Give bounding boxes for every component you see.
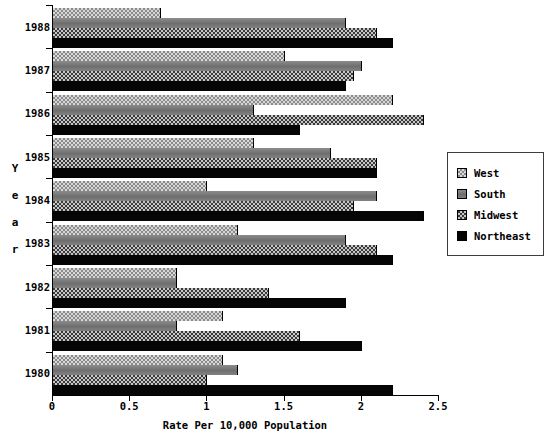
bar-midwest-1986 xyxy=(53,115,424,125)
legend-swatch-midwest-icon xyxy=(457,210,467,220)
legend-label: South xyxy=(474,188,506,200)
bar-west-1986 xyxy=(53,95,393,105)
legend: WestSouthMidwestNortheast xyxy=(447,152,544,256)
x-axis-tick-label-1: 1 xyxy=(203,400,209,412)
legend-label: Midwest xyxy=(474,209,518,221)
bar-midwest-1984 xyxy=(53,201,354,211)
y-axis-tick xyxy=(46,48,53,49)
legend-label: Northeast xyxy=(474,230,531,242)
bar-northeast-1986 xyxy=(53,125,300,135)
y-axis-tick xyxy=(46,308,53,309)
bar-northeast-1982 xyxy=(53,298,346,308)
y-axis-tick-labels: 198819871986198519841983198219811980 xyxy=(16,5,50,395)
x-axis-title: Rate Per 10,000 Population xyxy=(0,419,490,431)
bar-south-1982 xyxy=(53,278,177,288)
bar-northeast-1983 xyxy=(53,255,393,265)
bar-midwest-1983 xyxy=(53,245,377,255)
legend-item-west[interactable]: West xyxy=(457,162,535,183)
y-axis-tick-label-1980: 1980 xyxy=(16,367,50,379)
x-axis-tick-labels: 00.511.522.5 xyxy=(52,400,438,416)
bar-south-1984 xyxy=(53,191,377,201)
legend-item-midwest[interactable]: Midwest xyxy=(457,204,535,225)
bar-south-1983 xyxy=(53,235,346,245)
bar-group xyxy=(53,135,438,178)
bar-midwest-1982 xyxy=(53,288,269,298)
bar-group xyxy=(53,222,438,265)
bar-south-1980 xyxy=(53,365,238,375)
bar-midwest-1987 xyxy=(53,71,354,81)
y-axis-tick xyxy=(46,222,53,223)
bar-group xyxy=(53,48,438,91)
bar-south-1986 xyxy=(53,105,254,115)
bar-northeast-1987 xyxy=(53,81,346,91)
x-axis-tick-label-2: 2 xyxy=(358,400,364,412)
x-axis-tick-label-0: 0 xyxy=(49,400,55,412)
bar-midwest-1980 xyxy=(53,375,207,385)
y-axis-tick-label-1981: 1981 xyxy=(16,324,50,336)
legend-swatch-south-icon xyxy=(457,189,467,199)
bar-northeast-1980 xyxy=(53,385,393,395)
bar-midwest-1981 xyxy=(53,331,300,341)
bar-group xyxy=(53,308,438,351)
bar-northeast-1988 xyxy=(53,38,393,48)
plot-area xyxy=(52,5,438,395)
bar-south-1987 xyxy=(53,61,362,71)
x-axis-line xyxy=(52,395,439,396)
y-axis-tick-label-1987: 1987 xyxy=(16,64,50,76)
legend-swatch-west-icon xyxy=(457,168,467,178)
y-axis-tick-label-1985: 1985 xyxy=(16,151,50,163)
bar-west-1980 xyxy=(53,355,223,365)
bar-chart: Year 19881987198619851984198319821981198… xyxy=(0,0,552,440)
bar-northeast-1985 xyxy=(53,168,377,178)
y-axis-tick xyxy=(46,92,53,93)
y-axis-tick xyxy=(46,5,53,6)
bar-group xyxy=(53,352,438,395)
y-axis-tick xyxy=(46,178,53,179)
x-axis-tick-label-2.5: 2.5 xyxy=(429,400,448,412)
y-axis-tick-label-1984: 1984 xyxy=(16,194,50,206)
bar-group xyxy=(53,92,438,135)
y-axis-tick-label-1988: 1988 xyxy=(16,21,50,33)
bar-northeast-1981 xyxy=(53,341,362,351)
bar-midwest-1988 xyxy=(53,28,377,38)
bar-west-1981 xyxy=(53,311,223,321)
y-axis-tick-label-1982: 1982 xyxy=(16,281,50,293)
y-axis-tick xyxy=(46,265,53,266)
bar-south-1988 xyxy=(53,18,346,28)
bar-west-1985 xyxy=(53,138,254,148)
y-axis-tick-label-1983: 1983 xyxy=(16,237,50,249)
bar-group xyxy=(53,5,438,48)
bar-west-1987 xyxy=(53,51,285,61)
legend-label: West xyxy=(474,167,499,179)
x-axis-tick-label-1.5: 1.5 xyxy=(274,400,293,412)
bar-west-1982 xyxy=(53,268,177,278)
x-axis-tick-label-0.5: 0.5 xyxy=(120,400,139,412)
legend-item-south[interactable]: South xyxy=(457,183,535,204)
legend-item-northeast[interactable]: Northeast xyxy=(457,225,535,246)
bar-south-1981 xyxy=(53,321,177,331)
bar-west-1983 xyxy=(53,225,238,235)
y-axis-tick-label-1986: 1986 xyxy=(16,107,50,119)
bar-northeast-1984 xyxy=(53,211,424,221)
y-axis-tick xyxy=(46,352,53,353)
bar-west-1988 xyxy=(53,8,161,18)
bar-west-1984 xyxy=(53,181,207,191)
legend-swatch-northeast-icon xyxy=(457,231,467,241)
bar-south-1985 xyxy=(53,148,331,158)
bar-midwest-1985 xyxy=(53,158,377,168)
bar-group xyxy=(53,178,438,221)
y-axis-tick xyxy=(46,135,53,136)
bar-group xyxy=(53,265,438,308)
